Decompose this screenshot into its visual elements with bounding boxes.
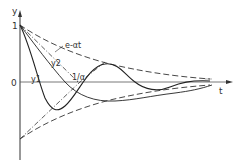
y-axis-arrow-icon (18, 10, 22, 17)
y1-curve (20, 25, 210, 110)
lower-envelope-curve (20, 85, 210, 139)
upper-tangent-line (20, 25, 78, 82)
y-tick-label-one: 1 (12, 21, 18, 31)
origin-label: 0 (11, 78, 17, 88)
x-axis-arrow-icon (226, 80, 233, 84)
y-axis-label: y (12, 6, 18, 16)
tangent-line (20, 62, 105, 139)
y2-label: y2 (51, 59, 61, 68)
damped-oscillation-diagram: y 1 0 t e-αt y1 y2 1/α (0, 0, 245, 161)
y2-curve (20, 25, 212, 101)
y1-label: y1 (31, 75, 41, 84)
x-axis-label: t (219, 86, 223, 96)
inverse-alpha-label: 1/α (72, 73, 85, 82)
upper-envelope-curve (20, 25, 210, 79)
envelope-label-leader (55, 46, 63, 52)
envelope-label: e-αt (65, 41, 81, 50)
